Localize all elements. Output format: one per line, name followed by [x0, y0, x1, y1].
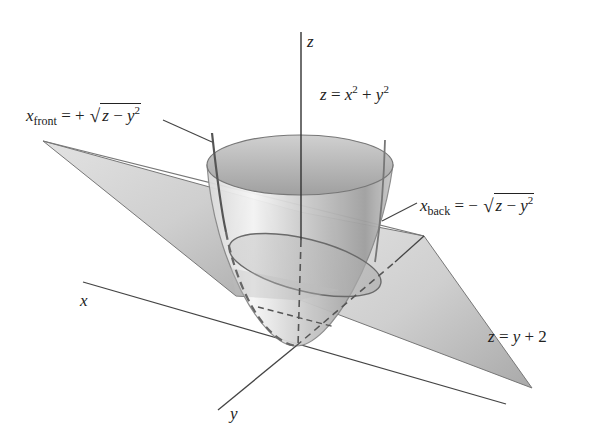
paraboloid-equation: z = x2 + y2 [320, 84, 389, 103]
z-axis-label: z [307, 33, 314, 50]
sqrt-back: √z − y2 [482, 193, 534, 215]
sqrt-front: √z − y2 [89, 103, 141, 125]
x-front-equation: xfront = + √z − y2 [26, 103, 141, 127]
paraboloid-rim-interior [207, 135, 393, 195]
y-axis-front [218, 346, 296, 410]
x-axis-label: x [80, 292, 88, 309]
leader-x-back [382, 203, 417, 221]
leader-x-front [163, 120, 212, 142]
diagram-canvas [0, 0, 590, 442]
plane-equation: z = y + 2 [488, 328, 547, 345]
y-axis-label: y [230, 405, 238, 422]
x-back-equation: xback = − √z − y2 [420, 193, 534, 217]
